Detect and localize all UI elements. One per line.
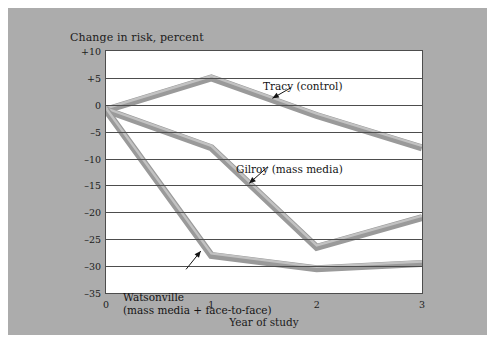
x-axis-tick: 0 bbox=[103, 299, 109, 310]
series-label-tracy: Tracy (control) bbox=[263, 80, 343, 93]
x-axis-tick: 3 bbox=[419, 299, 425, 310]
figure-canvas: Change in risk, percent +10+50–5–10–15–2… bbox=[0, 0, 496, 349]
y-axis-tick: –35 bbox=[84, 288, 101, 299]
y-axis-tick-labels: +10+50–5–10–15–20–25–30–35 bbox=[60, 50, 101, 294]
gridline bbox=[106, 266, 422, 267]
y-axis-tick: –20 bbox=[84, 207, 101, 218]
chart-panel: Change in risk, percent +10+50–5–10–15–2… bbox=[8, 8, 487, 335]
y-axis-tick: –10 bbox=[84, 153, 101, 164]
series-label-watsonville-line2: (mass media + face-to-face) bbox=[123, 304, 272, 317]
x-axis-tick: 2 bbox=[314, 299, 320, 310]
y-axis-tick: –30 bbox=[84, 261, 101, 272]
gridline bbox=[106, 78, 422, 79]
plot-wrapper: +10+50–5–10–15–20–25–30–35 0123 Year of … bbox=[8, 8, 487, 335]
series-label-watsonville: Watsonville (mass media + face-to-face) bbox=[123, 291, 272, 317]
y-axis-tick: –15 bbox=[84, 180, 101, 191]
gridline bbox=[106, 212, 422, 213]
gridline bbox=[106, 239, 422, 240]
y-axis-tick: 0 bbox=[95, 99, 101, 110]
y-axis-tick: +10 bbox=[81, 46, 101, 57]
y-axis-tick: –25 bbox=[84, 234, 101, 245]
gridline bbox=[106, 159, 422, 160]
gridline bbox=[106, 185, 422, 186]
x-axis-title: Year of study bbox=[105, 316, 423, 328]
gridline bbox=[106, 132, 422, 133]
series-label-gilroy: Gilroy (mass media) bbox=[236, 163, 343, 176]
y-axis-tick: –5 bbox=[90, 126, 101, 137]
y-axis-tick: +5 bbox=[87, 72, 101, 83]
series-label-watsonville-line1: Watsonville bbox=[123, 291, 272, 304]
gridline bbox=[106, 105, 422, 106]
